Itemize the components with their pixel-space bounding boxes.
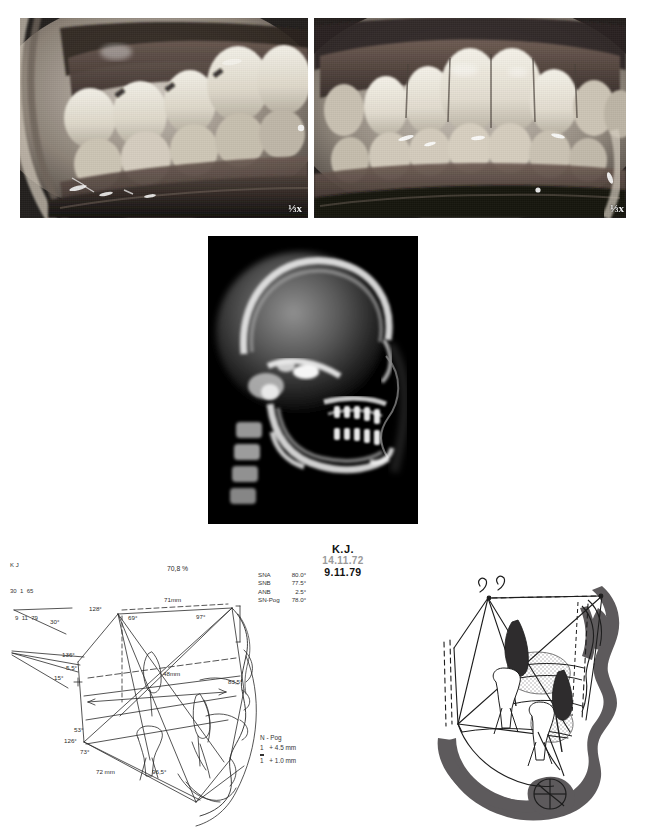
analysis-tracing-drawing <box>0 530 345 830</box>
scale-mark-lateral: ⅓x <box>288 202 302 214</box>
label-48mm: 48mm <box>163 670 180 677</box>
label-angle-15: 15° <box>54 674 63 681</box>
cephalometric-analysis-tracing: 70,8 % 71mm 48mm 72 mm 128° 69° 97° 30° … <box>0 530 345 830</box>
label-angle-73: 73° <box>80 748 89 755</box>
label-percent: 70,8 % <box>167 565 188 572</box>
label-angle-97: 97° <box>196 613 205 620</box>
label-71mm: 71mm <box>164 596 181 603</box>
scale-mark-frontal: ⅓x <box>610 202 624 214</box>
label-angle-55: 5,5° <box>66 664 77 671</box>
label-angle-69: 69° <box>128 614 137 621</box>
label-angle-53: 53° <box>74 726 83 733</box>
label-angle-30: 30° <box>50 618 59 625</box>
label-angle-136: 136° <box>62 651 75 658</box>
intraoral-frontal-photo-image <box>314 18 626 218</box>
lateral-cephalometric-radiograph <box>208 236 418 524</box>
intraoral-frontal-photo: ⅓x <box>314 18 626 218</box>
label-angle-965: 96,5° <box>152 768 167 775</box>
intraoral-lateral-photo-image <box>20 18 308 218</box>
label-angle-128-top: 128° <box>89 605 102 612</box>
label-72mm: 72 mm <box>96 768 115 775</box>
radiograph-image <box>208 236 418 524</box>
label-angle-126: 126° <box>64 737 77 744</box>
intraoral-lateral-photo: ⅓x <box>20 18 308 218</box>
superimposition-drawing <box>392 556 647 830</box>
label-angle-835: 83,5° <box>228 678 243 685</box>
superimposed-tracing <box>392 556 647 830</box>
